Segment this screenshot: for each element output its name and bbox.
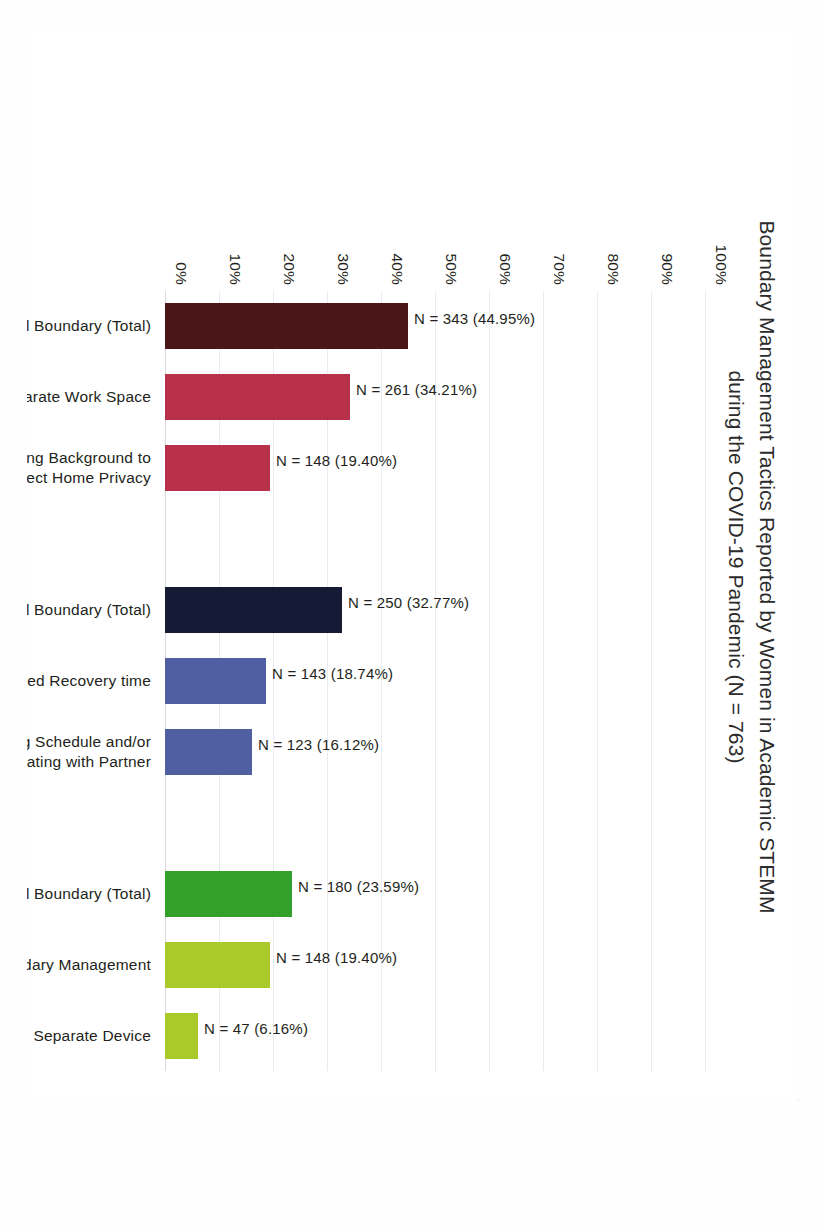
y-tick-label-30%: 30% bbox=[335, 223, 351, 285]
bar[interactable]: N = 261 (34.21%) bbox=[165, 374, 350, 420]
chart-title-line-1: Boundary Management Tactics Reported by … bbox=[752, 33, 783, 1101]
bar-value-label: N = 261 (34.21%) bbox=[356, 382, 477, 397]
chart-title: Boundary Management Tactics Reported by … bbox=[721, 33, 783, 1101]
y-tick-label-100%: 100% bbox=[713, 223, 729, 285]
category-label: Temporal Boundary (Total) bbox=[27, 600, 151, 620]
category-label: Separate Work Space bbox=[27, 387, 151, 407]
category-label: Email Boundary Management bbox=[27, 955, 151, 975]
category-label-cell: Self-imposed Recovery time bbox=[29, 646, 159, 717]
category-label-cell: Separate Device bbox=[29, 1000, 159, 1071]
bar[interactable]: N = 148 (19.40%) bbox=[165, 445, 270, 491]
bar-slot: N = 143 (18.74%) bbox=[165, 646, 705, 717]
bar-slot: N = 261 (34.21%) bbox=[165, 362, 705, 433]
bar[interactable]: N = 343 (44.95%) bbox=[165, 303, 408, 349]
bar-slot: N = 343 (44.95%) bbox=[165, 291, 705, 362]
chart-rotation-wrapper: Boundary Management Tactics Reported by … bbox=[27, 33, 797, 1101]
plot-area: N = 343 (44.95%)N = 261 (34.21%)N = 148 … bbox=[165, 291, 705, 1071]
y-tick-label-90%: 90% bbox=[659, 223, 675, 285]
bar-value-label: N = 143 (18.74%) bbox=[272, 666, 393, 681]
x-axis-category-labels: Spatial Boundary (Total)Separate Work Sp… bbox=[29, 291, 159, 1071]
bar-value-label: N = 180 (23.59%) bbox=[298, 879, 419, 894]
category-label-cell: Creating Schedule and/orCoordinating wit… bbox=[29, 716, 159, 787]
bar[interactable]: N = 123 (16.12%) bbox=[165, 729, 252, 775]
category-label-cell: Video Meeting Background toProtect Home … bbox=[29, 433, 159, 504]
bar-value-label: N = 250 (32.77%) bbox=[348, 595, 469, 610]
chart-title-line-2: during the COVID-19 Pandemic (N = 763) bbox=[721, 33, 752, 1101]
bar-value-label: N = 148 (19.40%) bbox=[276, 950, 397, 965]
bar-slot: N = 148 (19.40%) bbox=[165, 433, 705, 504]
y-tick-label-40%: 40% bbox=[389, 223, 405, 285]
bar[interactable]: N = 47 (6.16%) bbox=[165, 1013, 198, 1059]
bar[interactable]: N = 180 (23.59%) bbox=[165, 871, 292, 917]
category-label: Video Meeting Background toProtect Home … bbox=[27, 448, 151, 488]
category-spacer bbox=[29, 504, 159, 575]
chart-stage: Boundary Management Tactics Reported by … bbox=[27, 33, 797, 1101]
y-tick-label-70%: 70% bbox=[551, 223, 567, 285]
y-tick-label-20%: 20% bbox=[281, 223, 297, 285]
bar-slot-spacer bbox=[165, 787, 705, 858]
bar-value-label: N = 148 (19.40%) bbox=[276, 453, 397, 468]
bar-value-label: N = 343 (44.95%) bbox=[414, 311, 535, 326]
bar[interactable]: N = 148 (19.40%) bbox=[165, 942, 270, 988]
category-label-cell: Email Boundary Management bbox=[29, 929, 159, 1000]
category-spacer bbox=[29, 787, 159, 858]
y-tick-label-60%: 60% bbox=[497, 223, 513, 285]
bar-value-label: N = 47 (6.16%) bbox=[204, 1021, 308, 1036]
y-axis-tick-labels: 0%10%20%30%40%50%60%70%80%90%100% bbox=[165, 223, 705, 285]
bar-slot: N = 148 (19.40%) bbox=[165, 929, 705, 1000]
category-label-cell: Technological Boundary (Total) bbox=[29, 858, 159, 929]
category-label: Technological Boundary (Total) bbox=[27, 884, 151, 904]
category-label-cell: Separate Work Space bbox=[29, 362, 159, 433]
category-label: Spatial Boundary (Total) bbox=[27, 316, 151, 336]
bar[interactable]: N = 143 (18.74%) bbox=[165, 658, 266, 704]
category-label-cell: Temporal Boundary (Total) bbox=[29, 575, 159, 646]
gridline-100% bbox=[705, 291, 706, 1071]
scanned-page: Boundary Management Tactics Reported by … bbox=[0, 0, 824, 1226]
bar-slot: N = 250 (32.77%) bbox=[165, 575, 705, 646]
category-label: Separate Device bbox=[33, 1026, 151, 1046]
category-label: Self-imposed Recovery time bbox=[27, 671, 151, 691]
bar-slot-spacer bbox=[165, 504, 705, 575]
bar-slot: N = 47 (6.16%) bbox=[165, 1000, 705, 1071]
category-label: Creating Schedule and/orCoordinating wit… bbox=[27, 732, 151, 772]
bars-layer: N = 343 (44.95%)N = 261 (34.21%)N = 148 … bbox=[165, 291, 705, 1071]
y-tick-label-10%: 10% bbox=[227, 223, 243, 285]
y-tick-label-0%: 0% bbox=[173, 223, 189, 285]
y-tick-label-80%: 80% bbox=[605, 223, 621, 285]
bar-slot: N = 123 (16.12%) bbox=[165, 716, 705, 787]
y-tick-label-50%: 50% bbox=[443, 223, 459, 285]
category-label-cell: Spatial Boundary (Total) bbox=[29, 291, 159, 362]
bar-value-label: N = 123 (16.12%) bbox=[258, 737, 379, 752]
bar[interactable]: N = 250 (32.77%) bbox=[165, 587, 342, 633]
bar-slot: N = 180 (23.59%) bbox=[165, 858, 705, 929]
